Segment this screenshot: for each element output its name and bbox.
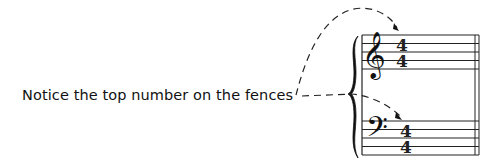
grand-staff-diagram: 𝄞 𝄢 4 4 4 4: [0, 0, 504, 165]
bass-clef-icon: 𝄢: [366, 110, 388, 150]
brace-icon: [348, 36, 358, 158]
treble-time-bottom: 4: [396, 51, 408, 71]
bass-time-bottom: 4: [400, 137, 412, 157]
treble-clef-icon: 𝄞: [362, 31, 386, 80]
arrowhead-bass: [395, 112, 402, 120]
end-barline: [475, 35, 479, 155]
arrowhead-treble: [393, 23, 399, 31]
